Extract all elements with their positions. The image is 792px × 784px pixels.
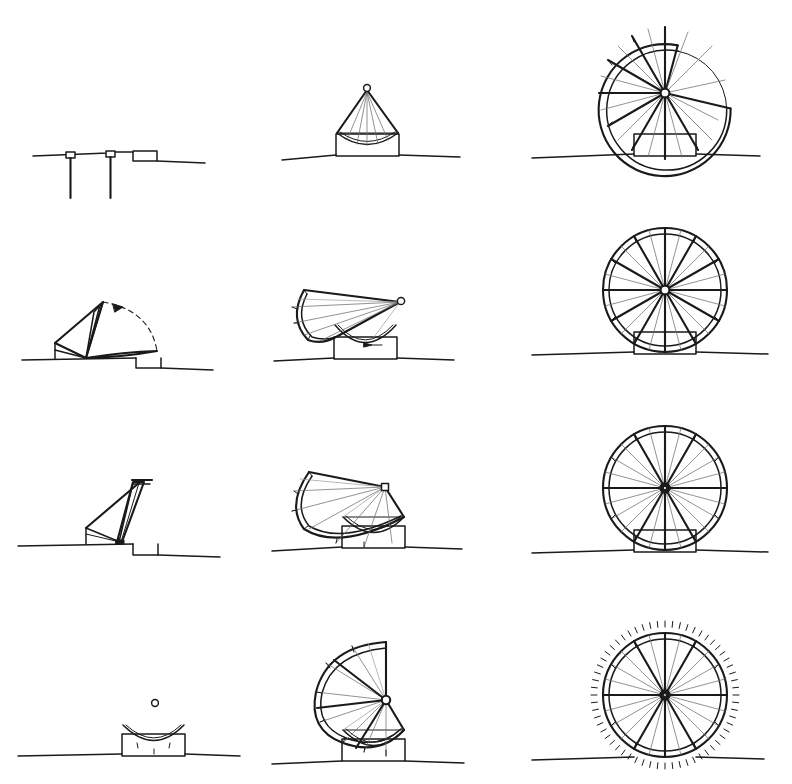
cleat-tick [628, 631, 631, 636]
cleat-tick [724, 658, 729, 661]
cleat-tick [720, 652, 725, 656]
cleat-tick [642, 760, 644, 766]
step-box [136, 358, 161, 368]
cleat-tick [591, 702, 597, 703]
panel-r2c2-quarter-fan-open-left [264, 275, 528, 385]
ground-line-right [161, 368, 213, 370]
step-box [133, 544, 158, 555]
hub-icon [661, 286, 670, 295]
ground-line-right [157, 161, 205, 163]
cleat-tick [591, 687, 597, 688]
sector-open-arc [679, 51, 727, 108]
ground-line-left [532, 352, 634, 355]
fold-line-4 [367, 92, 378, 144]
cleat-tick [605, 735, 610, 739]
ground-line-right [696, 352, 768, 354]
cleat-tick [686, 760, 688, 766]
cleat-tick [730, 716, 736, 718]
ground-line-right [158, 555, 220, 557]
hub-icon [661, 89, 670, 98]
cleat-tick [679, 762, 680, 768]
ground-line-left [532, 550, 634, 553]
panel-r2c3-wheel-complete-radial [528, 235, 792, 385]
ground-line-left [18, 754, 122, 756]
cleat-tick [711, 746, 715, 750]
cleat-tick [672, 621, 673, 627]
fan-sector-edge-top [304, 290, 400, 302]
cleat-tick [733, 687, 739, 688]
cleat-tick [601, 658, 606, 661]
panel-r1c1-stowed-flat-posts [0, 110, 264, 200]
sector-edge-lower [665, 45, 678, 93]
panel-r4c2-three-quarter-fan-open-left [264, 630, 528, 784]
panel-r1c3-wheel-open-sector-upper-right [528, 20, 792, 200]
ground-line-left [274, 358, 334, 361]
ground-line-right [696, 550, 768, 552]
ground-line-right [399, 155, 460, 157]
ground-line-left [532, 757, 634, 760]
rim-inner [607, 50, 727, 170]
fan-rim-inner [302, 294, 336, 339]
step-box [133, 151, 157, 161]
ground-line-left [272, 761, 342, 764]
panel-r4c3-wheel-complete-with-cleats [528, 625, 792, 784]
panel-r3c3-wheel-complete-dense-spokes [528, 425, 792, 575]
ground-line-right [405, 761, 464, 763]
hub-icon [382, 696, 390, 704]
cleat-tick [657, 763, 658, 769]
cleat-tick [635, 627, 637, 632]
cleat-tick [657, 621, 658, 627]
ground-line-right [696, 757, 764, 759]
ground-line-left [282, 155, 336, 160]
cleat-tick [595, 716, 601, 718]
cleat-tick [716, 645, 720, 649]
cleat-tick [732, 709, 738, 710]
cleat-tick [642, 625, 644, 631]
ground-line-right [405, 547, 462, 549]
panel-r2c1-sail-raising-with-arc [0, 280, 264, 390]
cleat-tick [601, 729, 606, 732]
fan-edge-upper [309, 472, 385, 487]
cleat-tick [597, 723, 602, 725]
panel-r4c1-cradle-empty-with-hub-dot [0, 680, 264, 784]
hub-bore-icon [663, 486, 666, 489]
cleat-tick [732, 680, 738, 681]
fold-line-2 [357, 92, 367, 144]
panel-r3c1-mast-upright-step [0, 455, 264, 565]
apex-hub-icon [364, 85, 371, 92]
cradle-tick-right [169, 743, 170, 748]
dashed-motion-arc [103, 302, 157, 351]
cleat-tick [686, 625, 688, 631]
cleat-tick [622, 750, 626, 755]
hub-icon [152, 700, 159, 707]
cleat-tick [622, 635, 626, 640]
cleat-tick [727, 665, 732, 667]
cleat-tick [705, 750, 709, 755]
cleat-tick [693, 627, 695, 632]
sail-fold-line [86, 305, 100, 358]
cleat-tick [650, 623, 651, 629]
cleat-tick [730, 672, 736, 674]
drawing-sheet [0, 0, 792, 784]
cleat-tick [597, 665, 602, 667]
direction-arrow-icon [364, 343, 372, 347]
cleat-tick [720, 735, 725, 739]
ground-line-left [22, 358, 136, 360]
deck-plate [86, 351, 157, 358]
cleat-tick [595, 672, 601, 674]
cleat-tick [610, 645, 614, 649]
cleat-tick [672, 763, 673, 769]
cradle-tick-left [137, 743, 138, 748]
ground-line-right [185, 754, 240, 756]
cleat-tick [650, 762, 651, 768]
cleat-tick [693, 757, 695, 762]
panel-r1c2-cone-closed-tent [264, 70, 528, 200]
arrowhead-icon [113, 304, 123, 312]
cleat-tick [699, 631, 702, 636]
cleat-tick [679, 623, 680, 629]
cleat-tick [635, 757, 637, 762]
cleat-tick [733, 702, 739, 703]
cleat-tick [727, 723, 732, 725]
hub-bore-icon [664, 694, 667, 697]
cradle-arc-inner [126, 725, 181, 738]
